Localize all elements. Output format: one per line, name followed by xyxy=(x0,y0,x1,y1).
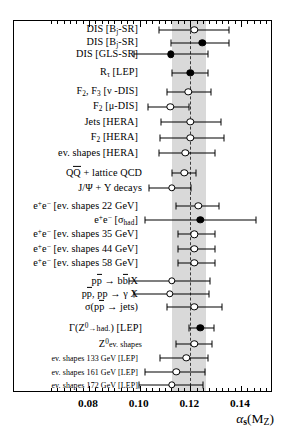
plot-frame: DIS [Bj-SR]DIS [Bj-SR]DIS [GLS-SR]Rτ [LE… xyxy=(13,20,272,392)
error-bar-cap xyxy=(134,290,135,297)
x-tick-minor xyxy=(197,21,198,24)
measurement-label-qqbar-lattice: QQ + lattice QCD xyxy=(66,168,142,178)
x-tick-minor xyxy=(228,21,229,24)
x-tick-minor xyxy=(127,21,128,24)
error-bar-cap xyxy=(133,51,134,58)
error-bar-cap xyxy=(208,69,209,76)
error-bar-cap xyxy=(214,324,215,331)
x-tick-minor xyxy=(165,388,166,391)
x-tick-minor xyxy=(64,21,65,24)
x-tick-minor xyxy=(146,21,147,24)
error-bar-cap xyxy=(211,89,212,96)
x-tick-minor xyxy=(247,388,248,391)
error-bar-cap xyxy=(256,217,257,224)
error-bar-cap xyxy=(215,245,216,252)
x-tick-major xyxy=(89,386,90,392)
measurement-label-f2-f3-nu-dis: F2, F3 [ν -DIS] xyxy=(76,86,138,97)
error-bar-cap xyxy=(221,119,222,126)
x-tick-minor xyxy=(133,388,134,391)
error-bar-cap xyxy=(209,290,210,297)
x-tick-minor xyxy=(209,21,210,24)
error-bar-cap xyxy=(188,324,189,331)
x-tick-minor xyxy=(114,21,115,24)
error-bar-cap xyxy=(219,203,220,210)
measurement-label-ee-sigma-had: e+e− [σhad] xyxy=(94,214,138,226)
x-axis-title: αs(MZ) xyxy=(0,411,274,427)
error-bar-cap xyxy=(191,184,192,191)
error-bar-cap xyxy=(176,340,177,347)
measurement-label-jpsi-upsilon: J/Ψ + Y decays xyxy=(78,183,142,193)
x-tick-minor xyxy=(216,21,217,24)
x-tick-minor xyxy=(146,388,147,391)
error-bar-cap xyxy=(212,340,213,347)
x-tick-minor xyxy=(57,388,58,391)
x-tick-minor xyxy=(102,388,103,391)
x-tick-minor xyxy=(254,21,255,24)
alpha-s-measurements-figure: DIS [Bj-SR]DIS [Bj-SR]DIS [GLS-SR]Rτ [LE… xyxy=(0,0,282,437)
error-bar-cap xyxy=(145,369,146,376)
measurement-label-ee-shapes-44: e+e− [ev. shapes 44 GeV] xyxy=(33,243,138,254)
x-tick-minor xyxy=(235,388,236,391)
error-bar-cap xyxy=(160,354,161,361)
x-tick-minor xyxy=(184,21,185,24)
measurement-label-f2-hera: F2 [HERA] xyxy=(91,132,138,143)
x-tick-minor xyxy=(171,388,172,391)
error-bar-cap xyxy=(207,51,208,58)
x-tick-minor xyxy=(266,21,267,24)
x-tick-minor xyxy=(152,388,153,391)
error-bar-cap xyxy=(159,27,160,34)
paren-close: ) xyxy=(270,411,275,426)
error-bar-cap xyxy=(161,119,162,126)
x-tick-major xyxy=(140,21,141,27)
measurement-label-ppbar-jets: σ(pp → jets) xyxy=(85,302,138,312)
x-tick-minor xyxy=(228,388,229,391)
measurement-label-dis-gls-sr: DIS [GLS-SR] xyxy=(76,49,138,59)
x-tick-minor xyxy=(165,21,166,24)
x-tick-minor xyxy=(76,21,77,24)
error-bar-cap xyxy=(149,184,150,191)
measurement-label-ee-shapes-58: e+e− [ev. shapes 58 GeV] xyxy=(33,257,138,268)
measurement-label-z0-ev-shapes: Z0ev. shapes xyxy=(99,338,142,349)
x-tick-minor xyxy=(121,388,122,391)
x-tick-minor xyxy=(247,21,248,24)
error-bar-cap xyxy=(196,169,197,176)
x-tick-major xyxy=(190,386,191,392)
x-tick-minor xyxy=(83,388,84,391)
x-tick-minor xyxy=(178,21,179,24)
x-tick-minor xyxy=(222,21,223,24)
measurement-label-ev-shapes-hera: ev. shapes [HERA] xyxy=(58,148,138,158)
x-tick-minor xyxy=(152,21,153,24)
measurement-label-ppbar-gamma: pp, pp → γ X xyxy=(82,289,138,299)
x-tick-major xyxy=(89,21,90,27)
error-bar-cap xyxy=(129,278,130,285)
measurement-label-dis-bj-sr-1: DIS [Bj-SR] xyxy=(86,24,138,35)
measurement-label-gamma-z-had: Γ(Z0→had.) [LEP] xyxy=(69,322,142,333)
error-bar-cap xyxy=(178,245,179,252)
error-bar-cap xyxy=(172,169,173,176)
x-tick-minor xyxy=(203,21,204,24)
paren-open: (M xyxy=(247,411,264,426)
x-tick-label: 0.10 xyxy=(129,397,149,409)
x-tick-minor xyxy=(235,21,236,24)
x-tick-minor xyxy=(133,21,134,24)
x-tick-minor xyxy=(121,21,122,24)
x-tick-label: 0.12 xyxy=(179,397,199,409)
x-tick-minor xyxy=(159,21,160,24)
x-tick-minor xyxy=(64,388,65,391)
x-tick-minor xyxy=(95,21,96,24)
measurement-label-ev-shapes-133: ev. shapes 133 GeV [LEP] xyxy=(51,353,138,363)
x-tick-minor xyxy=(70,21,71,24)
x-tick-minor xyxy=(254,388,255,391)
error-bar-cap xyxy=(167,89,168,96)
x-tick-minor xyxy=(51,21,52,24)
measurement-label-ee-shapes-22: e+e− [ev. shapes 22 GeV] xyxy=(33,200,138,211)
x-tick-minor xyxy=(51,388,52,391)
x-tick-minor xyxy=(108,388,109,391)
x-tick-minor xyxy=(216,388,217,391)
error-bar-cap xyxy=(189,104,190,111)
x-tick-major xyxy=(190,21,191,27)
error-bar-cap xyxy=(215,231,216,238)
error-bar-cap xyxy=(178,260,179,267)
error-bar-cap xyxy=(145,217,146,224)
x-tick-minor xyxy=(76,388,77,391)
